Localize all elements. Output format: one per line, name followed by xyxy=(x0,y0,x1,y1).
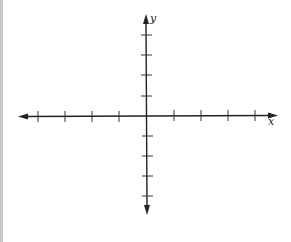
x-axis-left-arrow-icon xyxy=(18,114,28,120)
y-axis-down-arrow-icon xyxy=(144,205,150,215)
x-axis-line xyxy=(24,116,272,117)
axes-graphic xyxy=(0,0,291,242)
y-axis-up-arrow-icon xyxy=(143,14,149,24)
coordinate-plane: y x xyxy=(0,0,291,242)
y-axis-label: y xyxy=(150,12,156,25)
x-axis-label: x xyxy=(268,115,274,128)
y-axis-line xyxy=(146,22,147,208)
